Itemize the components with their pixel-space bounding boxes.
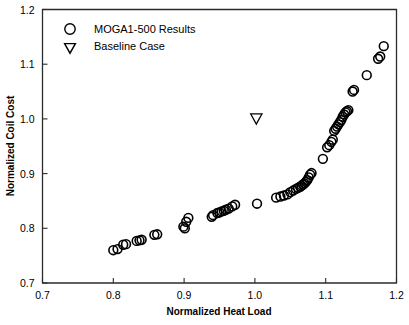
y-tick-label: 1.0 [20, 113, 35, 125]
chart-figure: 0.70.80.91.01.11.2 0.70.80.91.01.11.2 MO… [0, 0, 409, 325]
x-axis-title: Normalized Heat Load [166, 306, 271, 317]
y-tick-label: 0.7 [20, 277, 35, 289]
chart-background [0, 0, 409, 325]
y-tick-label: 0.9 [20, 168, 35, 180]
scatter-plot: 0.70.80.91.01.11.2 0.70.80.91.01.11.2 MO… [0, 0, 409, 325]
x-tick-label: 1.2 [389, 289, 404, 301]
x-tick-label: 0.9 [177, 289, 192, 301]
x-tick-label: 0.8 [106, 289, 121, 301]
legend-label-baseline: Baseline Case [94, 40, 165, 52]
x-tick-label: 1.1 [318, 289, 333, 301]
legend-label-moga: MOGA1-500 Results [94, 23, 196, 35]
y-tick-label: 1.1 [20, 58, 35, 70]
y-tick-label: 0.8 [20, 222, 35, 234]
y-tick-label: 1.2 [20, 4, 35, 16]
y-axis-title: Normalized Coil Cost [5, 95, 16, 196]
x-tick-label: 1.0 [248, 289, 263, 301]
x-tick-label: 0.7 [35, 289, 50, 301]
